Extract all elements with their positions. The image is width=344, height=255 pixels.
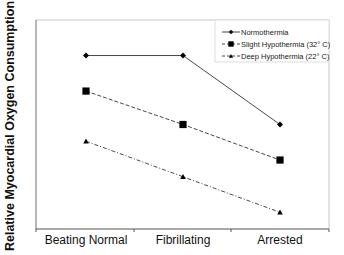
series-slight-hypothermia-32-c (82, 87, 283, 163)
series-line (86, 56, 280, 125)
x-tick-label-arrested: Arrested (257, 233, 302, 247)
diamond-marker-icon (180, 53, 186, 59)
legend-item-normothermia: Normothermia (219, 26, 289, 38)
square-marker-icon (179, 121, 186, 128)
legend-label: Normothermia (241, 28, 289, 37)
diamond-marker-icon (277, 122, 283, 128)
legend-label: Slight Hypothermia (32° C) (241, 40, 330, 49)
x-tick-label-fibrillating: Fibrillating (156, 233, 211, 247)
square-marker-icon (82, 87, 89, 94)
series-layer (82, 53, 283, 215)
legend-item-slight-hypothermia: Slight Hypothermia (32° C) (219, 38, 330, 50)
series-normothermia (83, 53, 283, 128)
legend: Normothermia Slight Hypothermia (32° C) … (219, 24, 329, 62)
triangle-marker-icon (83, 138, 89, 143)
x-tick-label-beating-normal: Beating Normal (45, 233, 128, 247)
legend-label: Deep Hypothermia (22° C) (241, 52, 329, 61)
square-marker-icon (276, 156, 283, 163)
legend-item-deep-hypothermia: Deep Hypothermia (22° C) (219, 50, 329, 62)
y-axis-label: Relative Myocardial Oxygen Consumption (3, 1, 17, 251)
diamond-marker-icon (83, 53, 89, 59)
